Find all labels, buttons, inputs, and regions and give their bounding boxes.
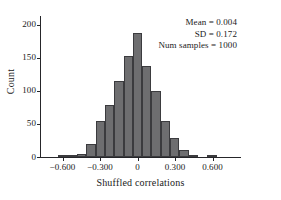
histogram-bar bbox=[77, 154, 86, 157]
histogram-bar bbox=[124, 56, 133, 157]
histogram-figure: 050100150200 Count Shuffled correlations… bbox=[0, 0, 281, 200]
annotation-line: Num samples = 1000 bbox=[158, 40, 237, 52]
x-axis-line bbox=[40, 157, 241, 158]
x-axis-tick-label: 0.600 bbox=[190, 162, 236, 172]
y-axis-tick-mark bbox=[37, 124, 40, 125]
histogram-bar bbox=[179, 150, 188, 157]
histogram-bar bbox=[161, 121, 170, 157]
histogram-bar bbox=[114, 81, 123, 157]
annotation-line: SD = 0.172 bbox=[158, 29, 237, 41]
histogram-bar bbox=[105, 105, 114, 157]
histogram-bar bbox=[96, 121, 105, 157]
x-axis-tick-mark bbox=[175, 158, 176, 161]
statistics-annotation: Mean = 0.004SD = 0.172Num samples = 1000 bbox=[158, 17, 237, 52]
histogram-bar bbox=[142, 66, 151, 157]
histogram-bar bbox=[151, 91, 160, 157]
x-axis-tick-mark bbox=[213, 158, 214, 161]
y-axis-tick-label: 50 bbox=[2, 119, 36, 128]
x-axis-tick-mark bbox=[138, 158, 139, 161]
histogram-bar bbox=[86, 144, 95, 157]
histogram-bar bbox=[207, 155, 216, 157]
histogram-bar bbox=[170, 138, 179, 157]
x-axis-tick-mark bbox=[100, 158, 101, 161]
y-axis-title: Count bbox=[5, 52, 16, 112]
y-axis-tick-mark bbox=[37, 91, 40, 92]
y-axis-tick-mark bbox=[37, 157, 40, 158]
annotation-line: Mean = 0.004 bbox=[158, 17, 237, 29]
y-axis-tick-label: 200 bbox=[2, 20, 36, 29]
histogram-bar bbox=[133, 33, 142, 157]
y-axis-tick-mark bbox=[37, 58, 40, 59]
y-axis-tick-mark bbox=[37, 25, 40, 26]
histogram-bar bbox=[68, 155, 77, 157]
x-axis-tick-mark bbox=[63, 158, 64, 161]
y-axis-tick-label: 0 bbox=[2, 153, 36, 162]
histogram-bar bbox=[189, 155, 198, 157]
histogram-bar bbox=[58, 155, 67, 157]
x-axis-title: Shuffled correlations bbox=[40, 177, 241, 188]
